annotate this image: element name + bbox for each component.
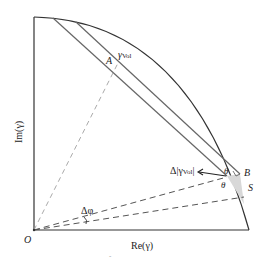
y-axis-label: Im(γ) xyxy=(14,121,24,143)
radius-to-S xyxy=(34,197,244,230)
gamma-vol-label: γVol xyxy=(118,50,132,60)
point-A-label: A xyxy=(106,56,112,66)
line-lower xyxy=(53,18,227,176)
delta-gamma-arrow xyxy=(199,172,226,176)
unit-arc xyxy=(34,17,249,230)
radius-to-theta xyxy=(34,177,227,230)
delta-phi-label: Δφ xyxy=(81,206,93,216)
theta-bottom-label: θ xyxy=(221,181,225,190)
delta-phi-arc xyxy=(84,217,87,224)
point-S-label: S xyxy=(248,183,253,193)
point-B-label: B xyxy=(244,168,250,178)
delta-gamma-vol-label: Δ|γVol| xyxy=(170,166,194,176)
origin-label: O xyxy=(24,235,31,245)
radius-to-A xyxy=(34,63,118,230)
origin-dot xyxy=(33,229,35,231)
diagram-canvas xyxy=(0,0,267,263)
tick-mark: ˆ xyxy=(109,255,111,262)
error-region xyxy=(227,174,244,204)
theta-top-label: θ xyxy=(224,167,228,176)
x-axis-label: Re(γ) xyxy=(131,241,153,251)
